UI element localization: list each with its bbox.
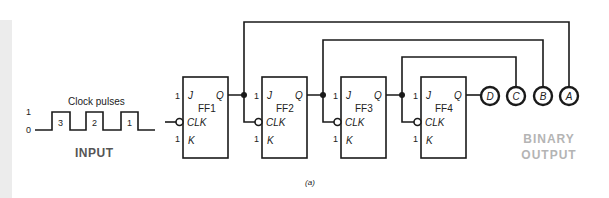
ff2-j-input-value: 1 <box>254 91 259 101</box>
ff4-q-pin: Q <box>454 90 462 101</box>
ff2-k-pin: K <box>267 135 275 146</box>
ff3-name: FF3 <box>355 103 373 114</box>
ff4-clk-bubble <box>414 119 421 126</box>
ff1-k-pin: K <box>188 135 196 146</box>
ff1-q-to-a-wire <box>244 22 569 95</box>
ff3-j-pin: J <box>345 90 352 101</box>
ff2-q-junction-dot <box>320 92 326 98</box>
ff1-q-pin: Q <box>216 90 224 101</box>
ff2-q-pin: Q <box>295 90 303 101</box>
pulse-number-1: 1 <box>127 118 132 128</box>
ff2-q-to-b-wire <box>323 40 543 95</box>
ripple-counter-diagram: Clock pulses 1 0 3 2 1 INPUT 1 1 J Q FF1… <box>0 0 609 198</box>
ff3-clk-pin: CLK <box>345 117 366 128</box>
ff1-q-to-ff2-clk-wire <box>228 95 255 122</box>
ff4-j-pin: J <box>425 90 432 101</box>
output-d-label: D <box>486 91 493 102</box>
ff2-clk-bubble <box>255 119 262 126</box>
ff3-q-junction-dot <box>399 92 405 98</box>
level-high-label: 1 <box>26 107 31 117</box>
figure-caption: (a) <box>305 178 315 187</box>
ff1-j-pin: J <box>187 90 194 101</box>
level-low-label: 0 <box>26 125 31 135</box>
ff4-k-pin: K <box>426 135 434 146</box>
ff1-clk-pin: CLK <box>187 117 208 128</box>
ff4-clk-pin: CLK <box>425 117 446 128</box>
clock-pulses-label: Clock pulses <box>68 96 125 107</box>
ff2-name: FF2 <box>276 103 294 114</box>
ff4-name: FF4 <box>435 103 453 114</box>
pulse-number-3: 3 <box>58 118 63 128</box>
ff3-q-to-ff4-clk-wire <box>386 95 414 122</box>
ff2-k-input-value: 1 <box>254 134 259 144</box>
ff2-clk-pin: CLK <box>266 117 287 128</box>
ff2-j-pin: J <box>266 90 273 101</box>
ff4-j-input-value: 1 <box>413 91 418 101</box>
ff3-k-pin: K <box>346 135 354 146</box>
ff1-name: FF1 <box>198 103 216 114</box>
ff2-q-to-ff3-clk-wire <box>307 95 334 122</box>
ff3-k-input-value: 1 <box>333 134 338 144</box>
ff4-k-input-value: 1 <box>413 134 418 144</box>
output-a-label: A <box>565 91 573 102</box>
binary-output-label-line1: BINARY <box>523 132 575 146</box>
ff1-k-input-value: 1 <box>175 134 180 144</box>
pulse-number-2: 2 <box>92 118 97 128</box>
output-c-label: C <box>512 91 520 102</box>
ff1-clk-bubble <box>176 119 183 126</box>
ff1-j-input-value: 1 <box>175 91 180 101</box>
ff3-q-pin: Q <box>374 90 382 101</box>
ff3-clk-bubble <box>334 119 341 126</box>
input-section-label: INPUT <box>75 146 114 160</box>
binary-output-label-line2: OUTPUT <box>521 148 576 162</box>
ff3-j-input-value: 1 <box>333 91 338 101</box>
ff1-q-junction-dot <box>241 92 247 98</box>
output-b-label: B <box>540 91 547 102</box>
